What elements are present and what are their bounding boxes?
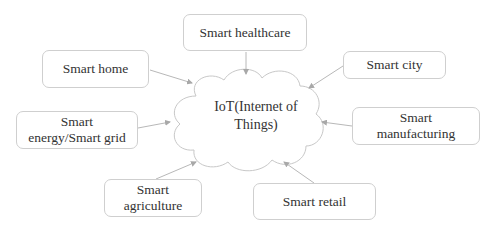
node-label: Smart retail <box>283 194 346 210</box>
edge-retail <box>284 162 314 183</box>
node-smart-manufacturing: Smart manufacturing <box>352 107 480 145</box>
iot-center-label: IoT(Internet of Things) <box>196 98 316 134</box>
node-label: Smart city <box>367 57 423 73</box>
edge-manufacturing <box>322 122 352 126</box>
node-smart-retail: Smart retail <box>253 183 376 220</box>
edge-city <box>309 66 343 88</box>
node-label: Smart manufacturing <box>377 110 456 142</box>
node-label: Smart agriculture <box>124 182 182 214</box>
node-label: Smart home <box>63 61 129 77</box>
node-label: Smart healthcare <box>199 25 290 41</box>
edge-home <box>150 70 192 83</box>
node-smart-agriculture: Smart agriculture <box>104 179 202 217</box>
node-smart-home: Smart home <box>42 50 149 88</box>
node-label: Smart energy/Smart grid <box>28 114 126 146</box>
node-smart-healthcare: Smart healthcare <box>183 14 307 51</box>
node-smart-city: Smart city <box>343 51 446 79</box>
edge-energy <box>138 122 170 128</box>
edge-agriculture <box>156 162 196 179</box>
node-smart-energy: Smart energy/Smart grid <box>16 111 138 149</box>
